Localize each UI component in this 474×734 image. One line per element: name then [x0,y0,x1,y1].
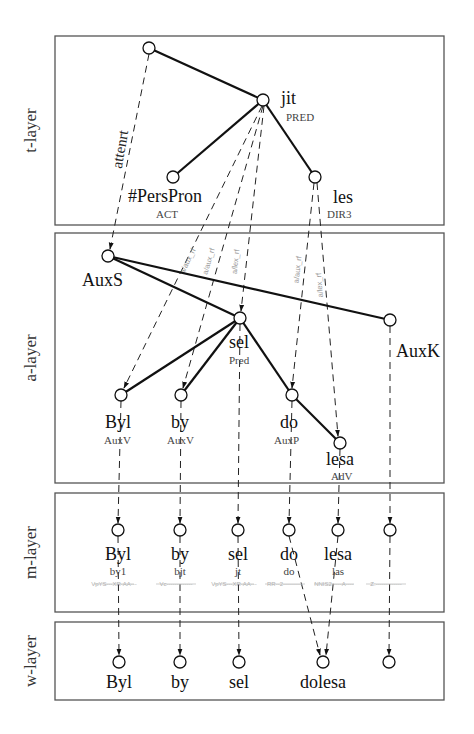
node-function-label: DIR3 [327,208,352,220]
t-layer-node[interactable] [143,42,155,54]
w-token-label: Byl [106,672,132,692]
a-layer-node[interactable] [115,389,127,401]
a-layer-node[interactable] [234,312,246,324]
m-form-label: sel [228,544,248,564]
m-lemma-label: by1 [110,565,127,577]
link-label: a/aux_rf [178,246,198,275]
m-lemma-label: las [332,565,344,577]
layered-dependency-diagram: t-layera-layerm-layerw-layer a/aux_rfa/a… [0,0,474,734]
m-layer-node[interactable] [174,524,186,536]
node-function-label: PRED [286,111,314,123]
a-layer-node[interactable] [102,250,114,262]
m-lemma-label: do [284,565,296,577]
node-word-label: #PersPron [128,186,202,206]
m-tag-label: Z:------------- [370,581,401,587]
reference-link-arrow [241,106,264,311]
link-label: a/aux_rf [292,255,304,284]
m-form-label: by [171,544,189,564]
w-token-label: by [171,672,189,692]
tree-edge [149,48,263,100]
tree-edge [121,318,240,395]
reference-link-arrow [183,106,263,388]
tree-edge [173,100,263,177]
node-word-label: AuxK [396,341,440,361]
tree-edge [108,256,390,320]
m-form-label: do [280,544,298,564]
node-word-label: do [280,412,298,432]
tree-edge [108,256,240,318]
m-tag-label: RR--2---------- [267,581,303,587]
node-labels: jitPRED#PersPronACTlesDIR3AuxSselPredAux… [82,88,440,692]
w-token-label: dolesa [300,672,346,692]
reference-link-arrow [292,183,314,388]
w-layer-node[interactable] [233,656,245,668]
a-layer-node[interactable] [286,389,298,401]
node-word-label: lesa [326,449,354,469]
w-token-label: sel [229,672,249,692]
t-layer-node[interactable] [257,94,269,106]
layer-label-w: w-layer [21,635,40,687]
m-form-label: lesa [324,544,352,564]
tree-edges [108,48,390,443]
link-label: a/aux_rf [201,246,217,275]
link-attribute-label: attenrt [109,128,132,169]
m-tag-label: VpYS---XR-AA--- [211,581,257,587]
m-tag-label: Vc------------- [160,581,193,587]
w-layer-node[interactable] [317,656,329,668]
a-layer-node[interactable] [384,314,396,326]
m-tag-label: NNIS2-----A---- [314,581,354,587]
link-label: a/lex_rf [314,272,325,298]
layer-boxes: t-layera-layerm-layerw-layer [21,36,444,700]
layer-label-m: m-layer [21,526,40,579]
m-layer-node[interactable] [283,524,295,536]
m-lemma-label: bjt [174,565,186,577]
node-word-label: sel [229,332,249,352]
a-layer-node[interactable] [334,437,346,449]
node-function-label: AuxP [274,434,299,446]
node-word-label: les [333,187,353,207]
node-word-label: by [171,412,189,432]
t-layer-node[interactable] [309,171,321,183]
a-layer-node[interactable] [175,389,187,401]
node-word-label: AuxS [82,270,123,290]
reference-link-arrow [389,536,390,655]
layer-label-a: a-layer [21,334,40,382]
w-layer-node[interactable] [113,656,125,668]
t-layer-node[interactable] [167,171,179,183]
node-function-label: AdV [331,470,352,482]
node-function-label: Pred [229,354,250,366]
m-layer-node[interactable] [232,524,244,536]
m-lemma-label: jt [234,565,241,577]
inter-layer-links: a/aux_rfa/aux_rfa/lex_rfa/aux_rfa/lex_rf [110,54,390,655]
m-tag-label: VpYS---XR-AA--- [91,581,137,587]
tree-edge [292,395,340,443]
node-function-label: AuxV [104,434,131,446]
m-form-label: Byl [105,544,131,564]
node-function-label: ACT [156,208,178,220]
reference-link-arrow [317,183,338,436]
w-layer-node[interactable] [174,656,186,668]
link-label: a/lex_rf [230,248,242,274]
m-layer-node[interactable] [332,524,344,536]
node-word-label: jit [280,88,296,108]
layer-label-t: t-layer [21,108,40,153]
node-word-label: Byl [105,412,131,432]
w-layer-node[interactable] [383,656,395,668]
node-function-label: AuxV [167,434,194,446]
m-layer-node[interactable] [384,524,396,536]
m-layer-node[interactable] [112,524,124,536]
